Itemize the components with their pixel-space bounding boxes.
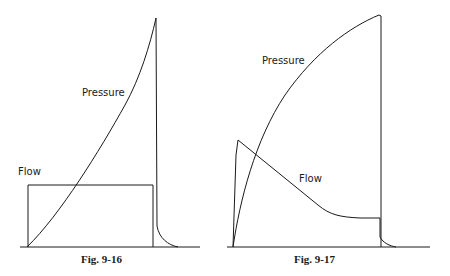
fig1-flow-curve	[28, 185, 153, 247]
fig2-pressure-curve	[233, 15, 381, 247]
fig1-flow-label: Flow	[18, 166, 41, 177]
figure-page: Pressure Flow Fig. 9-16 Pressure Flow Fi…	[0, 0, 450, 276]
fig1-pressure-curve	[27, 18, 178, 247]
fig2-pressure-label: Pressure	[262, 55, 305, 66]
fig2-flow-curve	[233, 140, 396, 247]
fig1-caption: Fig. 9-16	[81, 253, 122, 265]
fig2-flow-label: Flow	[299, 173, 322, 184]
fig1-pressure-label: Pressure	[82, 87, 125, 98]
fig2-caption: Fig. 9-17	[294, 253, 335, 265]
waveform-plots	[0, 0, 450, 276]
